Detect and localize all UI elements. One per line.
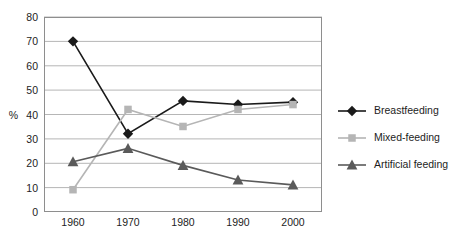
legend-item-breastfeeding[interactable]: Breastfeeding	[338, 104, 439, 116]
data-point-marker	[124, 106, 132, 114]
legend-label: Mixed-feeding	[374, 131, 440, 143]
data-point-marker	[123, 143, 134, 153]
x-axis-ticks: 1960 1970 1980 1990 2000	[61, 216, 305, 228]
y-tick-label: 40	[26, 109, 38, 121]
y-axis-label: %	[9, 109, 18, 121]
legend-label: Artificial feeding	[374, 158, 448, 170]
y-tick-label: 0	[32, 206, 38, 218]
y-tick-label: 50	[26, 84, 38, 96]
series-artificial-feeding	[68, 143, 299, 189]
data-point-marker	[178, 96, 188, 106]
y-tick-label: 70	[26, 35, 38, 47]
y-tick-label: 10	[26, 182, 38, 194]
x-tick-label: 2000	[281, 216, 305, 228]
chart-container: 80 70 60 50 40 30 20 10 0 % 1960 1970 19…	[0, 0, 458, 243]
legend-item-artificial-feeding[interactable]: Artificial feeding	[338, 158, 448, 170]
x-tick-label: 1990	[226, 216, 250, 228]
series-line	[73, 105, 293, 190]
y-tick-label: 20	[26, 157, 38, 169]
data-point-marker	[348, 134, 356, 142]
data-point-marker	[179, 123, 187, 130]
data-point-marker	[289, 101, 297, 109]
chart-legend: BreastfeedingMixed-feedingArtificial fee…	[338, 104, 448, 170]
series-line	[73, 41, 293, 133]
data-point-marker	[123, 129, 133, 139]
x-tick-label: 1980	[171, 216, 195, 228]
y-axis-ticks: 80 70 60 50 40 30 20 10 0	[26, 11, 38, 218]
x-tick-label: 1970	[116, 216, 140, 228]
y-tick-label: 30	[26, 133, 38, 145]
legend-label: Breastfeeding	[374, 104, 439, 116]
y-tick-label: 60	[26, 60, 38, 72]
line-chart: 80 70 60 50 40 30 20 10 0 % 1960 1970 19…	[0, 0, 458, 243]
data-point-marker	[347, 106, 357, 116]
legend-item-mixed-feeding[interactable]: Mixed-feeding	[338, 131, 440, 143]
y-tick-label: 80	[26, 11, 38, 23]
data-point-marker	[234, 106, 242, 114]
data-point-marker	[69, 186, 77, 194]
x-tick-label: 1960	[61, 216, 85, 228]
data-point-marker	[68, 36, 78, 46]
